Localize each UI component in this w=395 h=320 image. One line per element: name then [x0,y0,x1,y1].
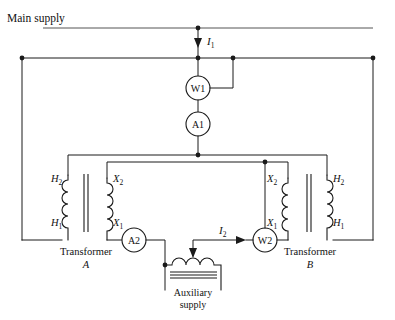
circuit-svg: W1 A1 H2 H1 X2 [0,0,395,320]
transformer-a-x2-label: X2 [112,173,123,187]
transformer-b-designation: B [307,259,314,270]
w1-voltage-lead [210,58,233,88]
transformer-a-x1-label: X1 [112,217,123,231]
transformer-a-secondary-winding [107,178,113,240]
ammeter-a1-label: A1 [192,119,204,130]
junction-dot-right-top [371,56,376,61]
transformer-b-secondary-winding [282,178,288,240]
a2-to-aux-wire [146,240,165,290]
wattmeter-w2-label: W2 [258,235,272,246]
ammeter-a2-label: A2 [128,235,140,246]
auxiliary-supply-winding [165,258,221,290]
transformer-b-x2-label: X2 [266,173,277,187]
wattmeter-w1-label: W1 [191,83,205,94]
current-i2-arrow [236,236,246,244]
transformer-a-name: Transformer [60,246,113,257]
transformer-b-h2-label: H2 [332,173,345,187]
current-i2-label: I2 [218,224,227,239]
transformer-b-h1-label: H1 [332,217,345,231]
transformer-b-name: Transformer [284,246,337,257]
transformer-b-primary-winding [327,175,333,240]
transformer-a-h1-label: H1 [50,217,63,231]
auxiliary-supply-line1: Auxiliary [174,287,212,298]
junction-dot-supply-bus [196,56,201,61]
junction-dot-w1-bus [231,56,236,61]
main-supply-title: Main supply [7,12,65,25]
auxiliary-supply-line2: supply [180,299,207,310]
current-i1-label: I1 [206,35,215,50]
junction-dot-left-top [20,56,25,61]
transformer-a-designation: A [82,259,90,270]
aux-feed-wire [193,240,240,256]
transformer-a-primary-winding [62,175,68,240]
transformer-a-h2-label: H2 [50,173,63,187]
aux-feed-arrow [189,248,197,258]
x2-bus [107,162,288,178]
current-i1-arrow [194,38,202,48]
circuit-diagram: W1 A1 H2 H1 X2 [0,0,395,320]
junction-dot-main-supply [196,26,201,31]
